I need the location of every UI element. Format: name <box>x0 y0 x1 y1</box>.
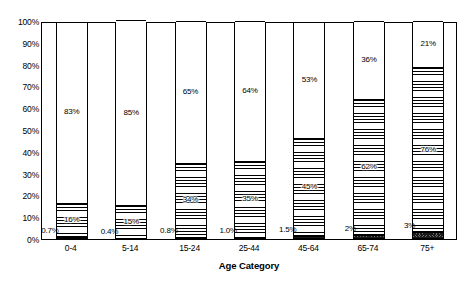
y-axis-tick-label: 0% <box>5 236 39 244</box>
bar-group-75+: 3%76%21% <box>399 23 458 239</box>
bar-value-label: 65% <box>183 88 198 96</box>
bar-value-label: 0.4% <box>101 228 118 236</box>
y-axis-tick-label: 40% <box>5 149 39 157</box>
bar-segment-bottom-segment[interactable] <box>176 237 206 239</box>
bar-value-label: 0.7% <box>41 227 58 235</box>
bar-segment-bottom-segment[interactable] <box>294 236 324 239</box>
bar-value-label: 53% <box>302 76 317 84</box>
x-axis-tick-label: 45-64 <box>298 243 319 253</box>
stacked-bar[interactable]: 1.0%35%64% <box>234 23 266 239</box>
bar-value-label: 2% <box>345 225 356 233</box>
bar-value-label: 34% <box>183 196 198 204</box>
plot-area: 0.7%16%83%0.4%15%85%0.8%34%65%1.0%35%64%… <box>41 22 457 240</box>
x-axis-tick-label: 65-74 <box>357 243 378 253</box>
bar-value-label: 83% <box>64 108 79 116</box>
bar-value-label: 15% <box>123 218 138 226</box>
stacked-bar[interactable]: 0.8%34%65% <box>175 23 207 239</box>
y-axis-tick-label: 70% <box>5 83 39 91</box>
y-axis-tick-label: 80% <box>5 62 39 70</box>
bar-value-label: 36% <box>361 56 376 64</box>
y-axis-tick-label: 90% <box>5 40 39 48</box>
x-axis: 0-45-1415-2425-4445-6465-7475+ <box>41 243 457 259</box>
bar-group-0-4: 0.7%16%83% <box>42 23 101 239</box>
x-axis-tick-label: 5-14 <box>122 243 138 253</box>
stacked-bar[interactable]: 3%76%21% <box>412 23 444 239</box>
bar-group-25-44: 1.0%35%64% <box>220 23 279 239</box>
bar-segment-bottom-segment[interactable] <box>235 237 265 239</box>
bar-value-label: 64% <box>242 87 257 95</box>
bar-value-label: 1.0% <box>220 227 237 235</box>
bar-segment-bottom-segment[interactable] <box>354 235 384 239</box>
y-axis-tick-label: 100% <box>5 18 39 26</box>
bar-value-label: 35% <box>242 195 257 203</box>
bar-group-65-74: 2%62%36% <box>339 23 398 239</box>
bar-value-label: 16% <box>64 216 79 224</box>
bar-group-5-14: 0.4%15%85% <box>101 23 160 239</box>
stacked-bar[interactable]: 1.5%45%53% <box>293 23 325 239</box>
bar-value-label: 0.8% <box>160 227 177 235</box>
bar-value-label: 21% <box>421 40 436 48</box>
y-axis: 0%10%20%30%40%50%60%70%80%90%100% <box>0 22 39 240</box>
bar-value-label: 3% <box>404 222 415 230</box>
x-axis-tick-label: 15-24 <box>179 243 200 253</box>
stacked-bar[interactable]: 0.4%15%85% <box>115 23 147 239</box>
stacked-bar-chart: 0%10%20%30%40%50%60%70%80%90%100% 0.7%16… <box>0 0 470 288</box>
y-axis-tick-label: 10% <box>5 214 39 222</box>
x-axis-title: Age Category <box>41 260 457 271</box>
bar-value-label: 45% <box>302 183 317 191</box>
bar-value-label: 85% <box>123 109 138 117</box>
bar-group-15-24: 0.8%34%65% <box>161 23 220 239</box>
y-axis-tick-label: 60% <box>5 105 39 113</box>
bar-value-label: 76% <box>421 146 436 154</box>
x-axis-tick-label: 75+ <box>420 243 434 253</box>
stacked-bar[interactable]: 2%62%36% <box>353 23 385 239</box>
y-axis-tick-label: 20% <box>5 192 39 200</box>
bar-value-label: 1.5% <box>279 226 296 234</box>
bar-group-45-64: 1.5%45%53% <box>280 23 339 239</box>
x-axis-tick-label: 25-44 <box>239 243 260 253</box>
bar-value-label: 62% <box>361 163 376 171</box>
y-axis-tick-label: 30% <box>5 171 39 179</box>
stacked-bar[interactable]: 0.7%16%83% <box>56 23 88 239</box>
y-axis-tick-label: 50% <box>5 127 39 135</box>
x-axis-tick-label: 0-4 <box>65 243 77 253</box>
bar-segment-bottom-segment[interactable] <box>413 232 443 239</box>
